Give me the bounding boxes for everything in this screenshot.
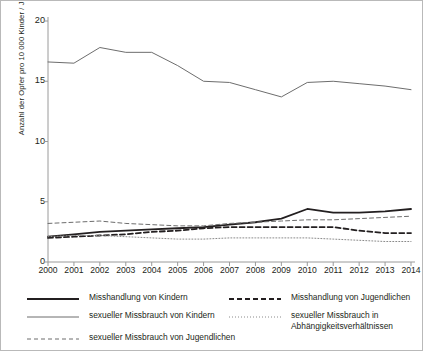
legend-label: Misshandlung von Kindern xyxy=(89,292,188,303)
legend-swatch xyxy=(27,312,79,322)
legend-swatch xyxy=(27,334,79,344)
legend-swatch xyxy=(229,312,281,322)
legend-label: Misshandlung von Jugendlichen xyxy=(291,292,410,303)
legend-swatch xyxy=(27,294,79,304)
chart-figure: Anzahl der Opfer pro 10 000 Kinder / Jug… xyxy=(0,0,423,351)
plot-area: Anzahl der Opfer pro 10 000 Kinder / Jug… xyxy=(1,1,423,286)
plot-svg xyxy=(1,1,423,286)
x-axis-tick-labels: 2000200120022003200420052006200720082009… xyxy=(1,265,423,285)
legend-swatch xyxy=(229,294,281,304)
x-tick-label: 2014 xyxy=(396,265,423,275)
legend-label: sexueller Missbrauch in Abhängigkeitsver… xyxy=(291,310,393,331)
legend-label: sexueller Missbrauch von Kindern xyxy=(89,310,215,321)
series-line xyxy=(48,209,411,237)
series-line xyxy=(48,48,411,97)
series-line xyxy=(48,235,411,241)
chart-legend: Misshandlung von KindernMisshandlung von… xyxy=(1,290,423,350)
legend-label: sexueller Missbrauch von Jugendlichen xyxy=(89,332,235,343)
